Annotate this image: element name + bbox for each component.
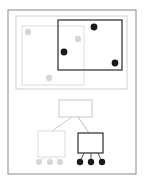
left-child-node	[38, 131, 65, 157]
r-tree-diagram	[0, 0, 146, 183]
light-point	[46, 75, 52, 81]
dark-leaf	[77, 159, 83, 165]
light-point	[25, 29, 31, 35]
dark-leaf	[88, 159, 94, 165]
light-leaf	[36, 159, 42, 165]
dark-leaf	[99, 159, 105, 165]
dark-point	[61, 49, 68, 56]
light-leaf	[47, 159, 53, 165]
root-node	[59, 100, 92, 117]
dark-point	[112, 60, 119, 67]
light-leaf	[57, 159, 63, 165]
right-child-node	[78, 133, 103, 153]
dark-point	[91, 24, 98, 31]
light-point	[75, 36, 81, 42]
